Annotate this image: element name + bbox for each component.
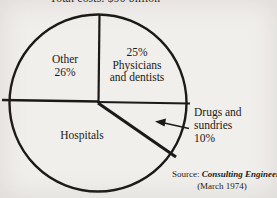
- slice-label-physicians-pct: 25%: [90, 46, 184, 59]
- source-name: Consulting Engineer: [202, 169, 277, 179]
- source-prefix: Source:: [172, 169, 200, 179]
- slice-label-physicians-name2: and dentists: [90, 71, 184, 84]
- drugs-arrow-head-icon: [155, 119, 166, 127]
- source-credit: Source: Consulting Engineer: [172, 169, 274, 179]
- pie-chart-figure: Total costs: $90 billion Other 26% 25% P…: [0, 0, 277, 198]
- slice-label-physicians-name1: Physicians: [90, 59, 184, 72]
- divider-right: [97, 102, 190, 104]
- slice-label-drugs-name2: sundries: [194, 119, 272, 132]
- slice-label-hospitals: Hospitals: [42, 129, 122, 142]
- source-date: (March 1974): [172, 181, 272, 191]
- slice-label-drugs: Drugs and sundries 10%: [194, 106, 272, 145]
- divider-left: [2, 100, 99, 102]
- slice-label-drugs-name1: Drugs and: [194, 106, 272, 119]
- slice-label-hospitals-name: Hospitals: [42, 129, 122, 142]
- slice-label-drugs-pct: 10%: [194, 132, 272, 145]
- slice-label-physicians: 25% Physicians and dentists: [90, 46, 184, 84]
